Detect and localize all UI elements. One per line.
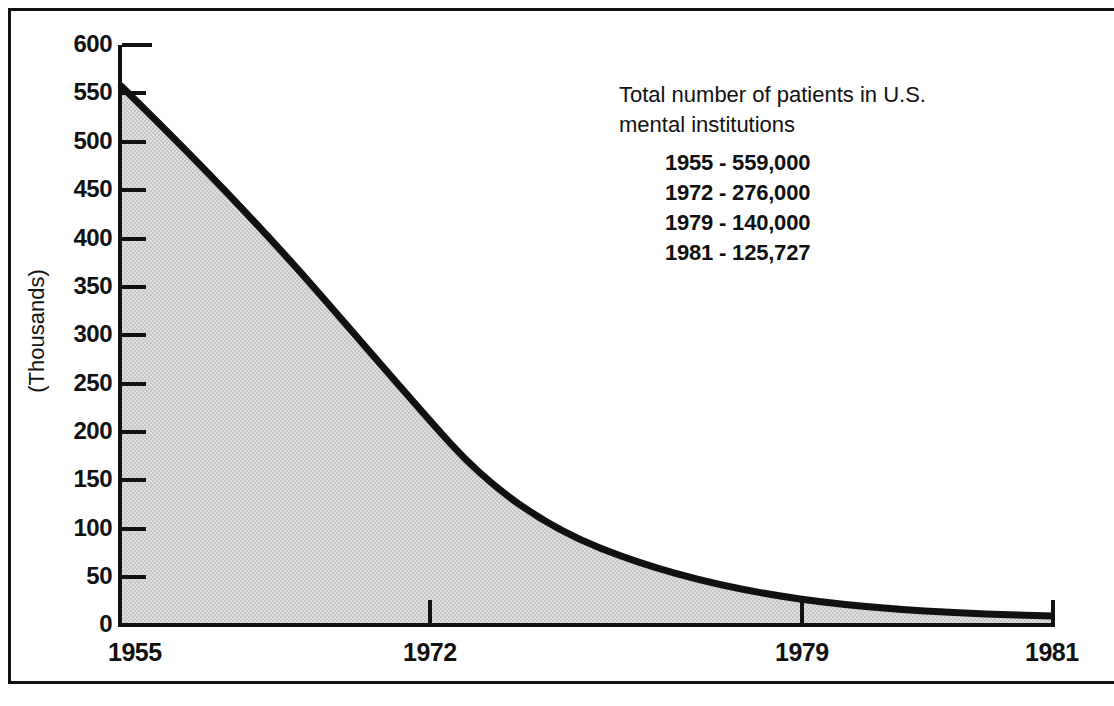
- x-tick-label-1981: 1981: [1025, 638, 1079, 667]
- x-tick-label-1955: 1955: [108, 638, 162, 667]
- x-tick-1981: [1051, 600, 1055, 624]
- y-tick-250: [122, 382, 146, 386]
- annotation-row-1981: 1981 - 125,727: [665, 238, 1019, 268]
- y-tick-200: [122, 430, 146, 434]
- y-tick-label-500: 500: [50, 127, 112, 155]
- annotation-row-1972: 1972 - 276,000: [665, 178, 1019, 208]
- y-tick-400: [122, 237, 146, 241]
- x-axis-line: [118, 623, 1055, 627]
- y-tick-label-50: 50: [50, 562, 112, 590]
- x-tick-label-1979: 1979: [775, 638, 829, 667]
- y-tick-label-0: 0: [50, 610, 112, 638]
- annotation-title-line-2: mental institutions: [619, 110, 1019, 140]
- x-tick-1972: [428, 600, 432, 624]
- annotation-title-line-1: Total number of patients in U.S.: [619, 80, 1019, 110]
- x-tick-label-1972: 1972: [403, 638, 457, 667]
- y-tick-500: [122, 140, 146, 144]
- y-tick-label-600: 600: [50, 30, 112, 58]
- y-tick-350: [122, 285, 146, 289]
- y-tick-450: [122, 188, 146, 192]
- y-tick-100: [122, 527, 146, 531]
- plot-area: 600 550 500 450 400 350 300 250 200 150 …: [0, 0, 1114, 706]
- y-tick-label-300: 300: [50, 320, 112, 348]
- y-tick-label-400: 400: [50, 224, 112, 252]
- y-axis-label: (Thousands): [24, 246, 50, 416]
- y-tick-50: [122, 575, 146, 579]
- annotation-row-1979: 1979 - 140,000: [665, 208, 1019, 238]
- y-tick-label-350: 350: [50, 272, 112, 300]
- y-tick-550: [122, 91, 146, 95]
- y-tick-label-100: 100: [50, 514, 112, 542]
- y-tick-600: [122, 43, 152, 47]
- annotation-value-list: 1955 - 559,000 1972 - 276,000 1979 - 140…: [665, 148, 1019, 268]
- annotation-row-1955: 1955 - 559,000: [665, 148, 1019, 178]
- y-tick-label-200: 200: [50, 417, 112, 445]
- y-tick-300: [122, 333, 146, 337]
- y-tick-label-150: 150: [50, 465, 112, 493]
- y-tick-label-550: 550: [50, 78, 112, 106]
- y-tick-label-450: 450: [50, 175, 112, 203]
- y-tick-label-250: 250: [50, 369, 112, 397]
- y-tick-150: [122, 478, 146, 482]
- x-tick-1979: [800, 600, 804, 624]
- chart-figure: 600 550 500 450 400 350 300 250 200 150 …: [0, 0, 1114, 706]
- chart-annotation: Total number of patients in U.S. mental …: [619, 80, 1019, 268]
